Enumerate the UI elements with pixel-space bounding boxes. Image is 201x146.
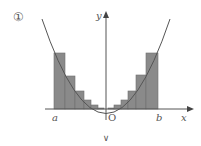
x-axis-arrow-icon [187, 106, 194, 112]
right-rectangle-2 [114, 105, 121, 109]
left-rectangle-1 [54, 53, 65, 109]
riemann-sum-diagram: ① y x O a b ∨ [0, 0, 201, 146]
left-rectangles [54, 53, 104, 109]
choice-number-label: ① [13, 10, 24, 24]
interval-end-label: b [156, 112, 162, 123]
interval-start-label: a [52, 112, 58, 123]
right-rectangles [108, 53, 158, 109]
left-rectangle-2 [65, 76, 75, 109]
left-rectangle-5 [91, 105, 98, 109]
y-axis-label: y [95, 10, 102, 21]
x-axis-label: x [181, 112, 187, 123]
right-rectangle-6 [146, 53, 158, 109]
origin-label: O [108, 112, 116, 123]
y-axis-arrow-icon [103, 11, 109, 18]
footer-mark: ∨ [103, 133, 110, 143]
